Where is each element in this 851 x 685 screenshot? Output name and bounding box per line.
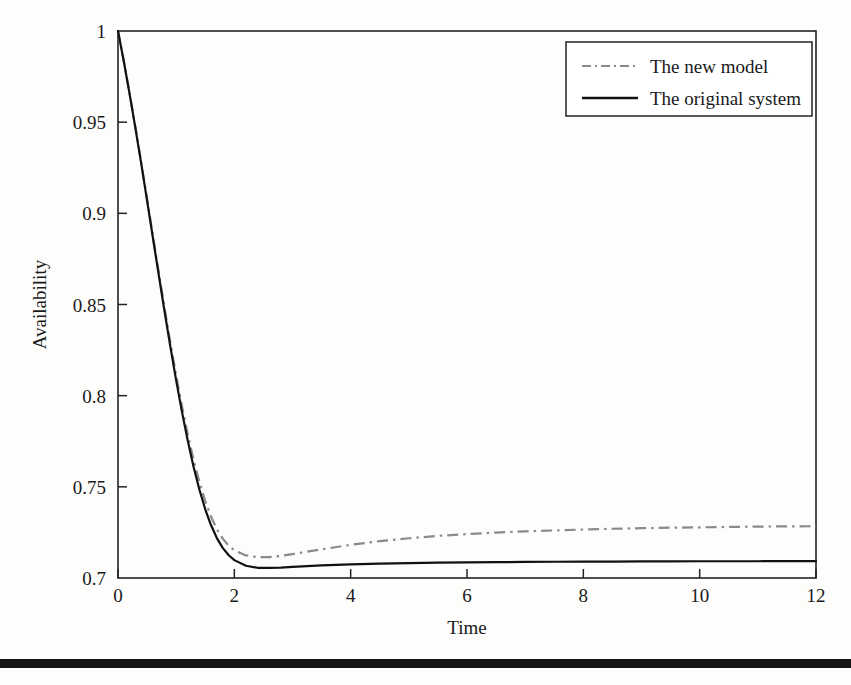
y-tick-label: 0.7 [82, 568, 106, 589]
y-tick-label: 0.95 [73, 112, 106, 133]
figure-container: 024681012 0.70.750.80.850.90.951 Time Av… [0, 0, 851, 685]
x-tick-label: 6 [462, 585, 472, 606]
y-tick-label: 0.8 [82, 386, 106, 407]
availability-line-chart: 024681012 0.70.750.80.850.90.951 Time Av… [0, 0, 851, 685]
y-axis-tick-labels: 0.70.750.80.850.90.951 [73, 21, 106, 589]
legend-label: The original system [650, 88, 801, 109]
y-tick-label: 0.9 [82, 203, 106, 224]
x-tick-label: 10 [690, 585, 709, 606]
y-tick-label: 0.75 [73, 477, 106, 498]
x-tick-label: 12 [807, 585, 826, 606]
x-axis-ticks [118, 569, 816, 578]
x-axis-tick-labels: 024681012 [113, 585, 825, 606]
y-axis-ticks [118, 122, 127, 487]
legend-label: The new model [650, 56, 768, 77]
x-axis-title: Time [447, 617, 486, 638]
x-tick-label: 0 [113, 585, 123, 606]
x-tick-label: 2 [230, 585, 240, 606]
y-axis-title: Availability [29, 259, 50, 349]
page-footer-rule [0, 659, 851, 668]
x-tick-label: 8 [579, 585, 589, 606]
y-tick-label: 1 [97, 21, 107, 42]
y-tick-label: 0.85 [73, 295, 106, 316]
chart-legend: The new modelThe original system [566, 42, 812, 116]
x-tick-label: 4 [346, 585, 356, 606]
